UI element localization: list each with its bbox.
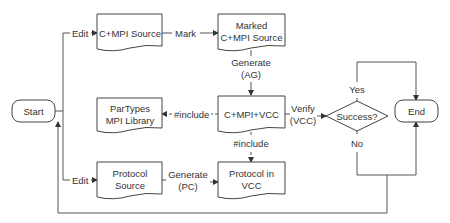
edge-edit-top: Edit (63, 28, 97, 39)
edge-label-mark: Mark (175, 28, 196, 39)
node-cmpi-vcc: C+MPI+VCC (218, 96, 285, 133)
node-protocol-vcc-line1: Protocol in (229, 168, 274, 179)
edge-label-verify-2: (VCC) (290, 115, 316, 126)
edge-label-include-down: #include (233, 138, 268, 149)
edge-label-edit-top: Edit (72, 28, 89, 39)
edge-label-generate-pc-1: Generate (168, 169, 208, 180)
node-protocol-vcc: Protocol in VCC (218, 162, 285, 199)
node-protocol-source-line1: Protocol (113, 168, 148, 179)
node-partypes-line1: ParTypes (110, 103, 150, 114)
edge-generate-ag: Generate (AG) (231, 50, 271, 95)
node-start: Start (12, 100, 55, 122)
edge-include-down: #include (233, 132, 268, 162)
edge-no: No (351, 122, 416, 175)
edge-include-left: #include (162, 109, 218, 120)
node-success-decision: Success? (326, 101, 388, 131)
edge-yes: Yes (349, 62, 416, 101)
edge-edit-bottom: Edit (63, 175, 97, 186)
edge-verify: Verify (VCC) (285, 103, 326, 126)
edge-mark: Mark (162, 28, 218, 39)
node-end-label: End (408, 106, 425, 117)
edge-label-verify-1: Verify (291, 103, 315, 114)
edge-label-generate-ag-1: Generate (231, 57, 271, 68)
node-cmpi-vcc-label: C+MPI+VCC (224, 109, 279, 120)
node-success-label: Success? (336, 111, 377, 122)
edge-start-branch (55, 33, 63, 180)
node-partypes-line2: MPI Library (106, 115, 155, 126)
edge-label-include-left: #include (174, 109, 209, 120)
flowchart-diagram: Edit Mark Generate (AG) #include #includ… (0, 0, 450, 223)
node-marked-source-line2: C+MPI Source (220, 32, 282, 43)
edge-label-no: No (351, 138, 363, 149)
node-cmpi-source-label: C+MPI Source (99, 28, 161, 39)
edge-label-edit-bottom: Edit (72, 175, 89, 186)
node-start-label: Start (23, 106, 43, 117)
node-partypes: ParTypes MPI Library (97, 98, 162, 133)
node-protocol-source-line2: Source (115, 180, 145, 191)
edge-label-yes: Yes (349, 84, 365, 95)
node-protocol-source: Protocol Source (97, 162, 162, 199)
edge-generate-pc: Generate (PC) (162, 169, 218, 192)
edge-label-generate-ag-2: (AG) (241, 69, 261, 80)
edge-label-generate-pc-2: (PC) (178, 181, 198, 192)
node-end: End (395, 100, 438, 122)
node-marked-source: Marked C+MPI Source (218, 14, 285, 51)
node-cmpi-source: C+MPI Source (97, 14, 162, 51)
node-protocol-vcc-line2: VCC (241, 180, 261, 191)
node-marked-source-line1: Marked (236, 20, 268, 31)
